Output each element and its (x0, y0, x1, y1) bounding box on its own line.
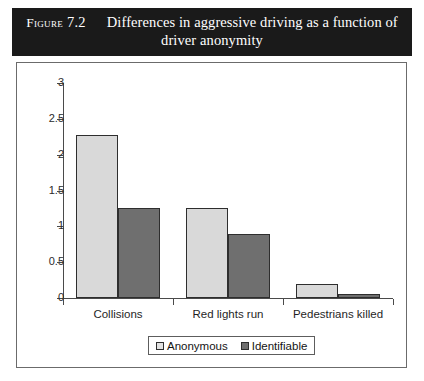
y-axis-tick-label: 2.5 (30, 112, 64, 124)
bar-chart: 00.511.522.53 CollisionsRed lights runPe… (17, 63, 408, 369)
figure-caption-bar: Figure 7.2 Differences in aggressive dri… (12, 8, 412, 56)
y-axis-tick-label-wrap: 2 (17, 155, 64, 156)
x-axis-tick (393, 299, 394, 305)
y-axis-tick-label-wrap: 1.5 (17, 191, 64, 192)
y-axis-tick-label: 1 (30, 219, 64, 231)
square-swatch-icon (241, 342, 249, 350)
category-label: Red lights run (173, 308, 283, 320)
bar-anonymous-red-lights-run (186, 208, 228, 298)
x-axis-tick (283, 299, 284, 305)
bar-identifiable-red-lights-run (228, 234, 270, 298)
y-axis-tick-label-wrap: 0.5 (17, 262, 64, 263)
bar-identifiable-collisions (118, 208, 160, 298)
legend-label: Anonymous (167, 340, 228, 352)
figure-frame: 00.511.522.53 CollisionsRed lights runPe… (16, 62, 407, 368)
figure-caption-text: Figure 7.2 Differences in aggressive dri… (26, 13, 398, 49)
y-axis-tick-label: 3 (30, 76, 64, 88)
figure-label: Figure (26, 15, 63, 30)
legend-item-identifiable: Identifiable (241, 340, 308, 352)
y-axis-tick-label-wrap: 3 (17, 83, 64, 84)
chart-legend: AnonymousIdentifiable (148, 336, 315, 355)
bar-identifiable-pedestrians-killed (338, 294, 380, 298)
y-axis-tick-label-wrap: 0 (17, 298, 64, 299)
bar-anonymous-collisions (76, 135, 118, 298)
y-axis-tick-label-wrap: 2.5 (17, 119, 64, 120)
x-axis-tick (63, 299, 64, 305)
figure-title: Differences in aggressive driving as a f… (107, 14, 398, 48)
legend-label: Identifiable (252, 340, 308, 352)
legend-item-anonymous: Anonymous (156, 340, 228, 352)
category-label: Collisions (63, 308, 173, 320)
y-axis-tick-label-wrap: 1 (17, 226, 64, 227)
x-axis-tick (173, 299, 174, 305)
y-axis-tick-label: 1.5 (30, 184, 64, 196)
bar-anonymous-pedestrians-killed (296, 284, 338, 298)
y-axis-tick-label: 0.5 (30, 255, 64, 267)
figure-number: 7.2 (67, 14, 86, 30)
y-axis-tick-label: 2 (30, 148, 64, 160)
square-swatch-icon (156, 342, 164, 350)
x-axis-line (63, 298, 393, 299)
category-label: Pedestrians killed (283, 308, 393, 320)
y-axis-tick-label: 0 (30, 291, 64, 303)
